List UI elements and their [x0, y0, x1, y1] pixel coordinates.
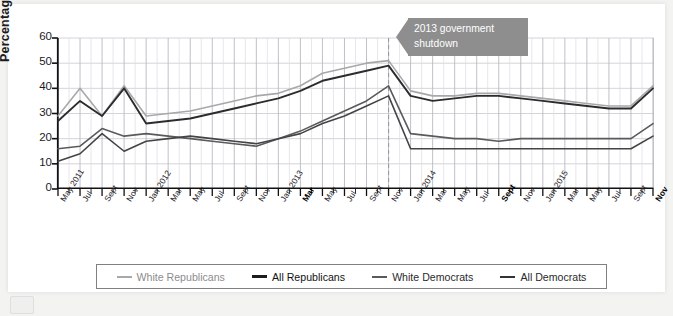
plot-svg [57, 38, 654, 189]
y-tick-label-20: 20 [20, 131, 52, 143]
y-axis-title: Percentage [0, 0, 12, 62]
legend-swatch-icon [117, 276, 132, 278]
x-tick-label-13: Jul [344, 189, 358, 204]
legend-label: White Democrats [392, 271, 473, 283]
y-tick-label-60: 60 [20, 30, 52, 42]
x-tick-label-25: Jul [609, 189, 623, 204]
line-chart-figure: Percentage 0102030405060 May 2011JulSept… [0, 0, 673, 316]
callout-text: 2013 government shutdown [414, 22, 530, 51]
y-tick-label-10: 10 [20, 156, 52, 168]
y-tick-label-50: 50 [20, 55, 52, 67]
x-tick-label-7: Jul [212, 189, 226, 204]
legend-swatch-icon [372, 276, 387, 278]
legend-swatch-icon [500, 276, 515, 278]
callout-line-1: 2013 government [414, 22, 530, 37]
plot-area [57, 38, 654, 189]
shutdown-callout: 2013 government shutdown [396, 18, 528, 56]
y-axis-tick-labels: 0102030405060 [20, 0, 52, 316]
y-tick-label-0: 0 [20, 181, 52, 193]
x-tick-label-27: Nov [653, 184, 670, 203]
callout-line-2: shutdown [414, 37, 530, 52]
legend-swatch-icon [252, 275, 267, 278]
y-tick-label-40: 40 [20, 80, 52, 92]
legend-label: All Republicans [272, 271, 345, 283]
x-tick-label-19: Jul [477, 189, 491, 204]
legend-item-white-democrats[interactable]: White Democrats [372, 271, 473, 283]
y-tick-label-30: 30 [20, 106, 52, 118]
legend-item-all-democrats[interactable]: All Democrats [500, 271, 586, 283]
chart-legend: White RepublicansAll RepublicansWhite De… [96, 264, 607, 289]
legend-label: All Democrats [520, 271, 586, 283]
x-tick-label-1: Jul [80, 189, 94, 204]
legend-item-white-republicans[interactable]: White Republicans [117, 271, 225, 283]
legend-label: White Republicans [137, 271, 225, 283]
legend-item-all-republicans[interactable]: All Republicans [252, 271, 345, 283]
